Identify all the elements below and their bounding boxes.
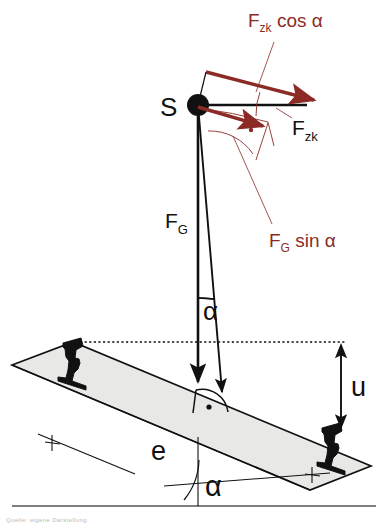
leader-line-fg-sin-alpha	[233, 136, 272, 224]
physics-diagram: S Fzk cos α Fzk FG FG sin α α u e α Quel…	[0, 0, 381, 524]
label-alpha-upper: α	[203, 296, 218, 326]
label-fzk: Fzk	[292, 116, 318, 144]
label-fzk-cos-alpha: Fzk cos α	[248, 10, 323, 35]
leader-line-fzk-cos-alpha	[256, 42, 274, 92]
label-e: e	[151, 436, 166, 466]
angle-arc-alpha-lower	[184, 437, 199, 506]
label-fg: FG	[165, 209, 188, 237]
label-u: u	[351, 372, 366, 402]
label-alpha-lower: α	[205, 470, 222, 502]
diagram-canvas: S Fzk cos α Fzk FG FG sin α α u e α	[0, 0, 381, 524]
vector-fg-sin-alpha	[198, 107, 263, 126]
inclined-plate	[12, 342, 371, 490]
label-centroid-s: S	[160, 92, 177, 122]
vector-fzk-cos-alpha	[198, 72, 314, 105]
line-resultant-perpendicular	[198, 105, 222, 392]
plate-body	[12, 342, 371, 490]
label-fg-sin-alpha: FG sin α	[269, 230, 336, 255]
source-caption: Quelle: eigene Darstellung	[6, 517, 87, 523]
leader-line-fzk	[276, 108, 292, 118]
